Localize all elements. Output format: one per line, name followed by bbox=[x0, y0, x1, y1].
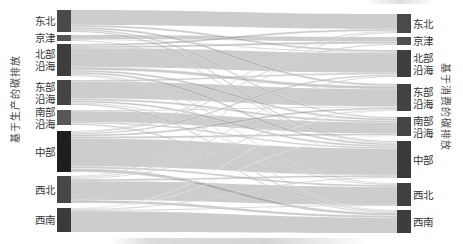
cropped-figure-caption bbox=[110, 238, 370, 244]
right-node bbox=[397, 183, 411, 206]
flow-links bbox=[71, 10, 397, 233]
left-node-label: 西北 bbox=[25, 184, 55, 196]
left-node-label: 东北 bbox=[25, 15, 55, 27]
left-node bbox=[57, 35, 71, 41]
right-node bbox=[397, 210, 411, 233]
flow-link bbox=[71, 211, 397, 233]
right-node-label: 东北 bbox=[413, 18, 443, 30]
right-node bbox=[397, 14, 411, 33]
right-node-label: 西北 bbox=[413, 189, 443, 201]
right-node bbox=[397, 37, 411, 45]
right-node-label: 中部 bbox=[413, 154, 443, 166]
left-node bbox=[57, 110, 71, 125]
left-node-label: 东部 沿海 bbox=[25, 81, 55, 105]
left-node-label: 中部 bbox=[25, 146, 55, 158]
right-node bbox=[397, 84, 411, 111]
right-node bbox=[397, 50, 411, 77]
left-node bbox=[57, 80, 71, 105]
left-node bbox=[57, 208, 71, 232]
left-node bbox=[57, 10, 71, 32]
left-node bbox=[57, 44, 71, 76]
sankey-diagram bbox=[0, 0, 463, 244]
left-node bbox=[57, 176, 71, 203]
right-node-label: 京津 bbox=[413, 35, 443, 47]
left-axis-title: 基于生产的碳排放 bbox=[7, 63, 22, 143]
left-node bbox=[57, 131, 71, 172]
left-node-label: 南部 沿海 bbox=[25, 106, 55, 130]
left-node-label: 北部 沿海 bbox=[25, 48, 55, 72]
right-node-label: 西南 bbox=[413, 216, 443, 228]
cropped-top-text bbox=[365, 0, 435, 4]
right-node bbox=[397, 117, 411, 136]
left-node-label: 西南 bbox=[25, 214, 55, 226]
left-node-label: 京津 bbox=[25, 32, 55, 44]
right-axis-title: 基于消费的碳排放 bbox=[439, 63, 454, 143]
right-node bbox=[397, 141, 411, 178]
